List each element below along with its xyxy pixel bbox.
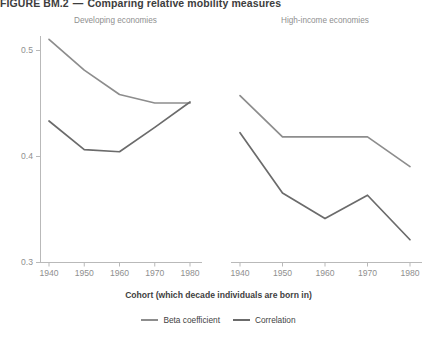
y-axis-tick-label: 0.5: [21, 45, 33, 55]
y-axis-tick-label: 0.4: [21, 151, 33, 161]
x-axis-tick-label: 1970: [145, 268, 164, 278]
x-axis-tick-label: 1980: [180, 268, 199, 278]
x-axis-tick-label: 1940: [230, 268, 249, 278]
legend-item-beta: Beta coefficient: [141, 316, 220, 324]
data-line-correlation: [49, 102, 190, 152]
x-axis-tick-label: 1960: [315, 268, 334, 278]
legend-label-beta: Beta coefficient: [163, 316, 220, 324]
x-axis-tick-label: 1950: [75, 268, 94, 278]
legend-label-correlation: Correlation: [255, 316, 296, 324]
x-axis-tick-label: 1980: [400, 268, 419, 278]
x-axis-label: Cohort (which decade individuals are bor…: [0, 290, 437, 300]
figure-root: FIGURE BM.2—Comparing relative mobility …: [0, 0, 437, 339]
legend-swatch-beta: [141, 319, 158, 321]
x-axis-tick-label: 1950: [273, 268, 292, 278]
chart-canvas: 0.50.40.31940195019601970198019401950196…: [0, 0, 437, 339]
y-axis-tick-label: 0.3: [21, 257, 33, 267]
x-axis-tick-label: 1940: [39, 268, 58, 278]
x-axis-tick-label: 1970: [358, 268, 377, 278]
legend-swatch-correlation: [233, 319, 250, 321]
data-line-beta-coefficient: [240, 96, 410, 167]
data-line-beta-coefficient: [49, 39, 190, 103]
x-axis-tick-label: 1960: [110, 268, 129, 278]
chart-legend: Beta coefficient Correlation: [0, 316, 437, 324]
legend-item-correlation: Correlation: [233, 316, 296, 324]
